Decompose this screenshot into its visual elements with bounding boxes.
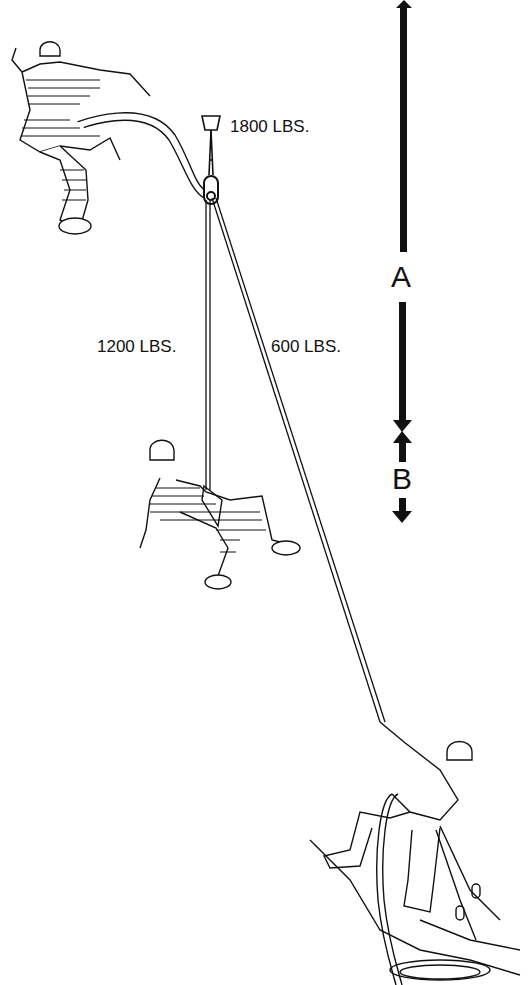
rope-right-strand <box>212 198 385 722</box>
anchor-load-label: 1800 LBS. <box>230 117 309 137</box>
left-strand-load-label: 1200 LBS. <box>97 337 176 357</box>
anchor-bucket-icon <box>202 116 220 175</box>
belayer-figure <box>310 722 520 985</box>
dimension-label-b: B <box>392 464 412 494</box>
right-strand-load-label: 600 LBS. <box>271 337 341 357</box>
rope-left-strand <box>206 200 210 490</box>
lead-climber-figure <box>12 42 150 234</box>
dimension-label-a: A <box>391 262 411 292</box>
second-climber-figure <box>140 440 300 589</box>
rope-force-diagram <box>0 0 528 985</box>
